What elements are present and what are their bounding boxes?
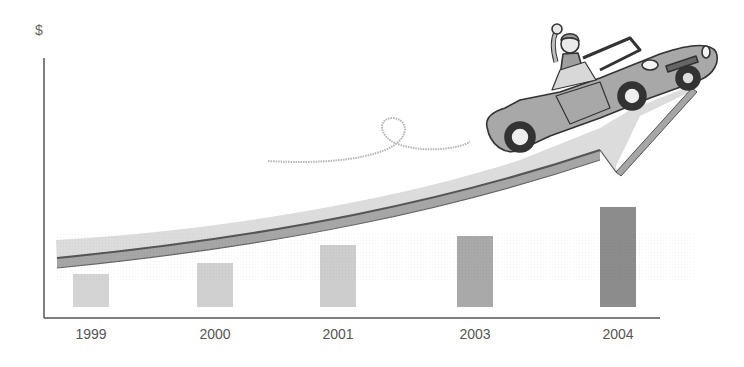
chart-canvas	[0, 0, 744, 367]
y-axis-label: $	[35, 22, 43, 38]
x-tick-2004: 2004	[588, 326, 648, 342]
x-tick-2000: 2000	[185, 326, 245, 342]
x-tick-2003: 2003	[445, 326, 505, 342]
car-trail	[268, 118, 470, 162]
x-tick-1999: 1999	[61, 326, 121, 342]
x-tick-2001: 2001	[308, 326, 368, 342]
chart-figure: $ 19992000200120032004	[0, 0, 744, 367]
